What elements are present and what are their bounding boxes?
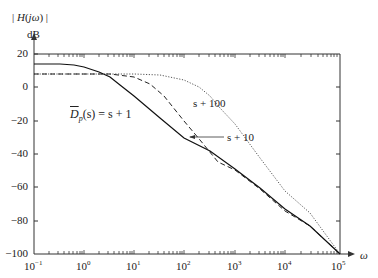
annotation-dp: Dp(s) = s + 1 <box>70 108 132 123</box>
annotation-s-plus-100: s + 100 <box>193 98 225 109</box>
bode-plot <box>0 0 378 278</box>
series-s-plus-100 <box>34 74 340 254</box>
series-s-plus-10 <box>34 74 340 254</box>
x-axis-arrow-icon <box>348 251 355 257</box>
ann-dp-d: D <box>70 107 79 121</box>
series-s-plus-1 <box>34 64 340 254</box>
annotation-arrow-icon <box>189 135 195 139</box>
annotation-s-plus-10: s + 10 <box>227 132 254 143</box>
y-ticks <box>34 54 340 221</box>
ann-dp-rest: (s) = s + 1 <box>83 107 132 121</box>
y-axis-arrow-icon <box>31 33 37 40</box>
